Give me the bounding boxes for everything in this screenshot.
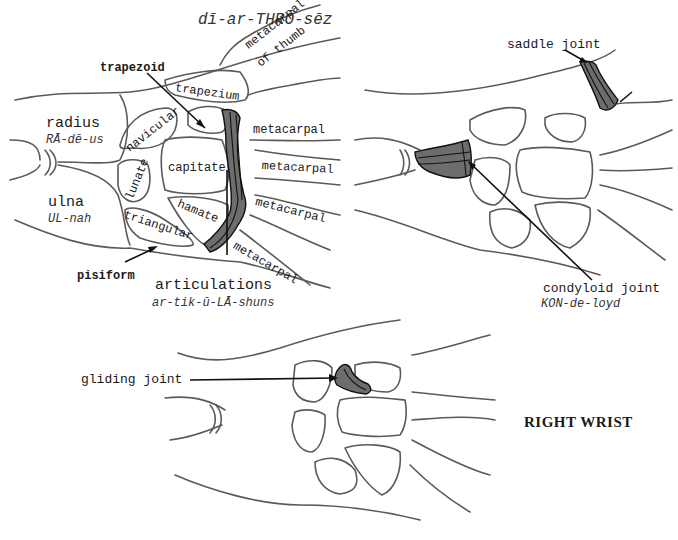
label-radius-pronunciation: RĀ-dē-us — [46, 134, 104, 146]
label-condyloid-joint: condyloid joint — [543, 282, 660, 295]
label-condyloid-pronunciation: KON-de-loyd — [541, 298, 620, 310]
bottom-wrist-diagram — [165, 320, 495, 520]
label-pisiform: pisiform — [77, 270, 135, 282]
label-radius: radius — [46, 116, 100, 131]
label-saddle-joint: saddle joint — [507, 38, 601, 51]
label-ulna-pronunciation: UL-nah — [48, 213, 91, 225]
figure-caption: RIGHT WRIST — [524, 414, 633, 431]
label-ulna: ulna — [48, 195, 84, 210]
label-trapezoid: trapezoid — [100, 62, 165, 74]
label-articulations: articulations — [155, 278, 272, 293]
right-wrist-diagram — [355, 50, 672, 280]
label-metacarpal-2: metacarpal — [261, 160, 334, 176]
label-articulations-pronunciation: ar-tik-ū-LĀ-shuns — [152, 297, 274, 309]
label-capitate: capitate — [168, 162, 226, 174]
label-gliding-joint: gliding joint — [81, 373, 182, 386]
label-metacarpal-1: metacarpal — [253, 124, 325, 136]
